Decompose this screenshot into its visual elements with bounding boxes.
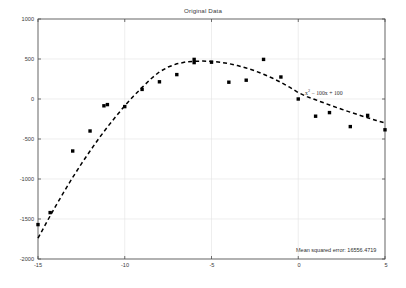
data-point-marker bbox=[48, 211, 51, 214]
figure-canvas: Original Data 1000 500 0 -500 -1000 -150… bbox=[0, 0, 406, 288]
data-point-marker bbox=[158, 80, 161, 83]
data-point-marker bbox=[175, 73, 178, 76]
data-point-marker bbox=[192, 61, 195, 64]
data-point-marker bbox=[279, 75, 282, 78]
data-point-marker bbox=[88, 129, 91, 132]
data-point-marker bbox=[71, 149, 74, 152]
data-point-marker bbox=[314, 115, 317, 118]
data-point-marker bbox=[102, 104, 105, 107]
data-point-marker bbox=[245, 79, 248, 82]
data-point-marker bbox=[210, 61, 213, 64]
grid-lines bbox=[38, 19, 385, 259]
data-point-marker bbox=[349, 125, 352, 128]
data-point-marker bbox=[140, 88, 143, 91]
plot-svg bbox=[0, 0, 406, 288]
data-point-marker bbox=[297, 97, 300, 100]
data-point-marker bbox=[192, 58, 195, 61]
data-point-marker bbox=[106, 103, 109, 106]
data-point-marker bbox=[328, 111, 331, 114]
data-point-marker bbox=[383, 128, 386, 131]
data-point-marker bbox=[366, 114, 369, 117]
data-point-marker bbox=[262, 58, 265, 61]
data-point-marker bbox=[227, 81, 230, 84]
data-point-marker bbox=[36, 223, 39, 226]
data-point-marker bbox=[123, 105, 126, 108]
